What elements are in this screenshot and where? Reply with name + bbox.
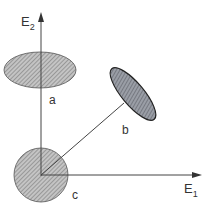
region-a <box>4 52 76 88</box>
label-b: b <box>122 123 129 137</box>
ellipse-b <box>103 62 162 127</box>
axis-e2-label: E2 <box>21 14 35 32</box>
axis-e1-arrowhead-icon <box>192 172 202 178</box>
vector-to-b <box>41 103 124 175</box>
label-c: c <box>72 188 78 202</box>
axis-e1-label: E1 <box>184 181 198 199</box>
diagram-canvas: E2 E1 a b c <box>0 0 202 205</box>
region-b <box>103 62 162 127</box>
axis-e2-arrowhead-icon <box>38 12 44 22</box>
ellipse-a <box>4 52 76 88</box>
label-a: a <box>49 93 56 107</box>
